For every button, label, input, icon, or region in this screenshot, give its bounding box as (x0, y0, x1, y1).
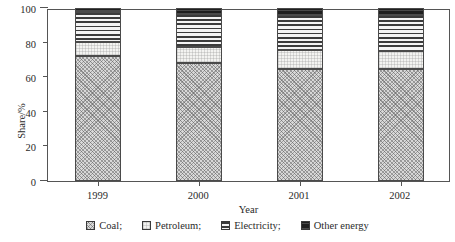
legend-label: Coal; (99, 220, 122, 231)
bar-segment-petroleum[interactable] (75, 42, 121, 56)
y-axis-tick (40, 7, 48, 8)
bar-segment-coal[interactable] (378, 69, 424, 181)
bar-segment-electricity[interactable] (378, 15, 424, 51)
bar-2001[interactable] (277, 8, 323, 181)
x-axis-tick-label: 1999 (87, 190, 108, 201)
y-axis-tick (43, 145, 48, 146)
legend-item-electricity[interactable]: Electricity; (221, 220, 281, 231)
bar-2000[interactable] (176, 8, 222, 181)
bar-segment-petroleum[interactable] (378, 51, 424, 68)
plot-inner (48, 10, 449, 181)
plot-area (47, 9, 450, 182)
legend-item-otherenergy[interactable]: Other energy (301, 220, 369, 231)
stacked-bar-chart: Share/% 020406080100 1999200020012002 Ye… (0, 0, 455, 242)
x-axis-tick (401, 181, 402, 186)
legend-swatch-icon (221, 221, 230, 230)
legend-label: Other energy (314, 220, 369, 231)
bar-segment-otherenergy[interactable] (75, 8, 121, 12)
legend-item-coal[interactable]: Coal; (86, 220, 122, 231)
bar-segment-coal[interactable] (75, 56, 121, 181)
chart-legend: Coal;Petroleum;Electricity;Other energy (0, 220, 455, 231)
x-axis-tick-label: 2000 (188, 190, 209, 201)
y-axis-tick (43, 111, 48, 112)
x-axis-tick (199, 181, 200, 186)
bar-segment-otherenergy[interactable] (176, 8, 222, 14)
bar-segment-petroleum[interactable] (176, 47, 222, 63)
bar-segment-electricity[interactable] (176, 14, 222, 47)
y-axis-tick (43, 76, 48, 77)
legend-swatch-icon (86, 221, 95, 230)
x-axis-tick (98, 181, 99, 186)
bar-segment-electricity[interactable] (277, 15, 323, 50)
bar-segment-electricity[interactable] (75, 12, 121, 41)
legend-label: Electricity; (234, 220, 281, 231)
legend-swatch-icon (142, 221, 151, 230)
y-axis-tick (43, 42, 48, 43)
legend-label: Petroleum; (155, 220, 201, 231)
bar-segment-otherenergy[interactable] (378, 8, 424, 15)
legend-item-petroleum[interactable]: Petroleum; (142, 220, 201, 231)
bar-segment-coal[interactable] (176, 63, 222, 181)
bar-segment-petroleum[interactable] (277, 50, 323, 68)
bar-1999[interactable] (75, 8, 121, 181)
y-axis-tick-label: 60 (0, 73, 36, 84)
x-axis-tick-label: 2001 (288, 190, 309, 201)
bar-2002[interactable] (378, 8, 424, 181)
y-axis-tick (40, 180, 48, 181)
x-axis-tick-label: 2002 (389, 190, 410, 201)
y-axis-tick-label: 20 (0, 142, 36, 153)
x-axis-title: Year (47, 204, 450, 215)
bar-segment-coal[interactable] (277, 69, 323, 181)
legend-swatch-icon (301, 221, 310, 230)
y-axis-tick-label: 0 (0, 177, 36, 188)
bar-segment-otherenergy[interactable] (277, 8, 323, 15)
y-axis-tick-label: 100 (0, 4, 36, 15)
y-axis-tick-label: 40 (0, 107, 36, 118)
y-axis-tick-label: 80 (0, 38, 36, 49)
x-axis-tick (300, 181, 301, 186)
